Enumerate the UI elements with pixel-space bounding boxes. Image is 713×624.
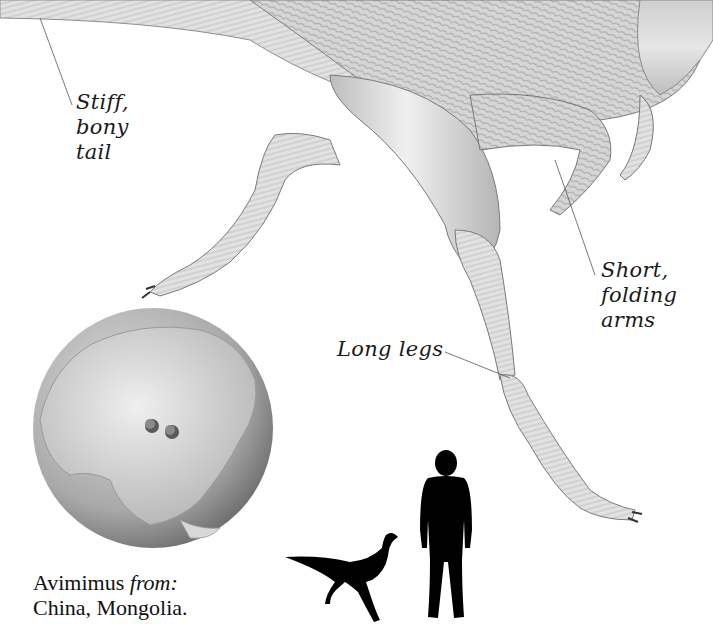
arms-label-line: arms bbox=[601, 308, 677, 333]
origin-caption: Avimimus from: China, Mongolia. bbox=[33, 570, 188, 620]
location-marker bbox=[145, 419, 159, 433]
globe-map bbox=[33, 308, 273, 548]
human-silhouette bbox=[420, 450, 472, 618]
near-shin bbox=[455, 230, 515, 380]
tail-label-line: Stiff, bbox=[76, 90, 129, 115]
species-name: Avimimus bbox=[33, 570, 124, 595]
neck bbox=[638, 0, 713, 95]
tail-label: Stiff, bony tail bbox=[76, 90, 129, 165]
caption-line-1: Avimimus from: bbox=[33, 570, 188, 595]
tail-label-line: bony bbox=[76, 115, 129, 140]
far-leg bbox=[150, 133, 340, 296]
locations: China, Mongolia. bbox=[33, 595, 188, 620]
dinosaur-silhouette bbox=[285, 533, 398, 622]
tail-pointer bbox=[40, 18, 72, 105]
legs-label: Long legs bbox=[337, 337, 443, 362]
tail-label-line: tail bbox=[76, 140, 129, 165]
arms-label-line: folding bbox=[601, 283, 677, 308]
from-label: from: bbox=[130, 570, 178, 595]
near-foot bbox=[500, 375, 635, 520]
arms-label: Short, folding arms bbox=[601, 258, 677, 333]
location-marker bbox=[165, 425, 179, 439]
arms-label-line: Short, bbox=[601, 258, 677, 283]
